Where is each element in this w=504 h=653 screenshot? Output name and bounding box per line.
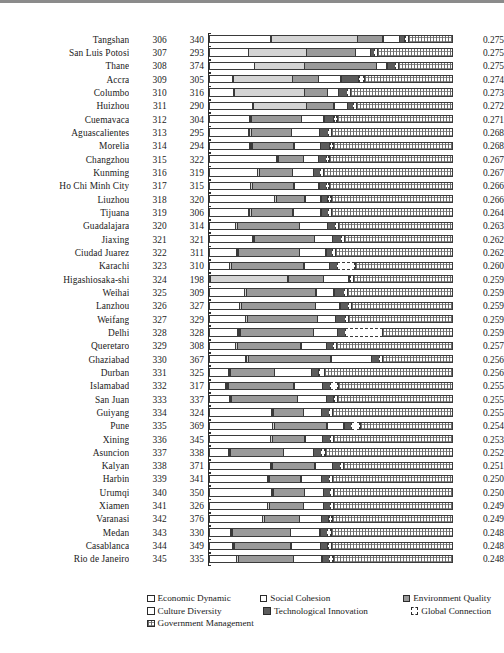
bar-segment-s6 bbox=[337, 395, 453, 403]
legend-item-government-management: Government Management bbox=[147, 617, 260, 630]
bar-segment-s2 bbox=[238, 248, 300, 256]
row-bar-cell bbox=[208, 460, 455, 473]
bar-segment-s6 bbox=[332, 475, 453, 483]
row-city-label: Guiyang bbox=[0, 408, 129, 418]
chart-row: Aguascalientes3132950.268 bbox=[0, 126, 504, 139]
legend-label-technological-innovation: Technological Innovation bbox=[274, 605, 374, 618]
row-city-label: Asuncion bbox=[0, 448, 129, 458]
row-score-value: 341 bbox=[167, 474, 208, 484]
row-score-value: 327 bbox=[167, 301, 208, 311]
stacked-bar bbox=[209, 515, 453, 523]
bar-segment-s2 bbox=[230, 368, 275, 376]
row-city-label: Morelia bbox=[0, 141, 129, 151]
axis-tick-mark bbox=[208, 380, 212, 381]
row-city-label: Aguascalientes bbox=[0, 128, 129, 138]
row-bar-cell bbox=[208, 406, 455, 419]
row-city-label: Changzhou bbox=[0, 155, 129, 165]
legend-swatch-icon-global-connection bbox=[411, 607, 419, 615]
row-score-value: 369 bbox=[167, 421, 208, 431]
stacked-bar bbox=[209, 328, 453, 336]
row-rank-value: 322 bbox=[129, 248, 166, 258]
row-rank-value: 319 bbox=[129, 208, 166, 218]
row-rank-value: 345 bbox=[129, 554, 166, 564]
bar-segment-s2 bbox=[247, 315, 317, 323]
bar-segment-s3 bbox=[293, 208, 322, 216]
bar-segment-s6 bbox=[343, 462, 453, 470]
bar-segment-s3 bbox=[293, 555, 322, 563]
row-index-value: 0.264 bbox=[455, 208, 504, 218]
row-rank-value: 343 bbox=[129, 528, 166, 538]
bar-segment-s6 bbox=[377, 48, 453, 56]
chart-row: Weifang3273290.259 bbox=[0, 313, 504, 326]
row-city-label: Accra bbox=[0, 75, 129, 85]
bar-segment-s0 bbox=[209, 208, 249, 216]
axis-tick-mark bbox=[208, 526, 212, 527]
bar-segment-s0 bbox=[209, 342, 236, 350]
axis-tick-mark bbox=[208, 393, 212, 394]
row-rank-value: 344 bbox=[129, 541, 166, 551]
bar-segment-s6 bbox=[408, 35, 453, 43]
row-index-value: 0.272 bbox=[455, 101, 504, 111]
row-score-value: 315 bbox=[167, 181, 208, 191]
bar-segment-s2 bbox=[237, 342, 301, 350]
row-rank-value: 332 bbox=[129, 381, 166, 391]
row-city-label: Kalyan bbox=[0, 461, 129, 471]
bar-segment-s0 bbox=[209, 302, 240, 310]
row-rank-value: 324 bbox=[129, 275, 166, 285]
axis-tick-mark bbox=[208, 46, 212, 47]
row-index-value: 0.259 bbox=[455, 301, 504, 311]
bar-segment-s3 bbox=[316, 288, 335, 296]
bar-segment-s6 bbox=[331, 128, 453, 136]
bar-segment-s0 bbox=[209, 328, 238, 336]
axis-tick-mark bbox=[208, 166, 212, 167]
legend-item-technological-innovation: Technological Innovation bbox=[263, 605, 410, 618]
bar-segment-s2 bbox=[228, 382, 295, 390]
row-city-label: Kunming bbox=[0, 168, 129, 178]
bar-segment-s3 bbox=[301, 115, 324, 123]
stacked-bar bbox=[209, 62, 453, 70]
bar-segment-s4 bbox=[341, 75, 360, 83]
axis-tick-mark bbox=[208, 193, 212, 194]
row-index-value: 0.259 bbox=[455, 275, 504, 285]
row-bar-cell bbox=[208, 300, 455, 313]
row-score-value: 349 bbox=[167, 541, 208, 551]
row-bar-cell bbox=[208, 513, 455, 526]
bar-segment-s2 bbox=[273, 488, 305, 496]
axis-tick-mark bbox=[208, 366, 212, 367]
bar-segment-s3 bbox=[305, 435, 323, 443]
axis-tick-mark bbox=[208, 539, 212, 540]
bar-segment-s6 bbox=[325, 448, 453, 456]
stacked-bar bbox=[209, 342, 453, 350]
row-index-value: 0.267 bbox=[455, 155, 504, 165]
row-rank-value: 326 bbox=[129, 301, 166, 311]
stacked-bar bbox=[209, 288, 453, 296]
bar-segment-s2 bbox=[252, 182, 294, 190]
legend-item-global-connection: Global Connection bbox=[411, 605, 497, 618]
row-rank-value: 331 bbox=[129, 368, 166, 378]
legend-swatch-icon-economic-dynamic bbox=[147, 595, 155, 603]
chart-row: Guadalajara3203140.263 bbox=[0, 220, 504, 233]
row-index-value: 0.268 bbox=[455, 141, 504, 151]
chart-row: Durban3313250.256 bbox=[0, 366, 504, 379]
row-city-label: Cuemavaca bbox=[0, 115, 129, 125]
bar-segment-s3 bbox=[274, 368, 312, 376]
row-rank-value: 342 bbox=[129, 514, 166, 524]
bar-segment-s3 bbox=[290, 528, 320, 536]
stacked-bar bbox=[209, 542, 453, 550]
legend-label-social-cohesion: Social Cohesion bbox=[270, 592, 336, 605]
row-rank-value: 339 bbox=[129, 474, 166, 484]
row-score-value: 308 bbox=[167, 341, 208, 351]
stacked-bar bbox=[209, 422, 453, 430]
row-score-value: 374 bbox=[167, 61, 208, 71]
chart-row: Casablanca3443490.248 bbox=[0, 539, 504, 552]
row-bar-cell bbox=[208, 113, 455, 126]
stacked-bar bbox=[209, 248, 453, 256]
legend-swatch-icon-social-cohesion bbox=[260, 595, 268, 603]
axis-tick-mark bbox=[208, 153, 212, 154]
bar-segment-s2 bbox=[252, 142, 295, 150]
bar-segment-s6 bbox=[324, 368, 453, 376]
row-rank-value: 330 bbox=[129, 355, 166, 365]
stacked-bar bbox=[209, 262, 453, 270]
stacked-bar bbox=[209, 35, 453, 43]
bar-segment-s3 bbox=[383, 35, 401, 43]
